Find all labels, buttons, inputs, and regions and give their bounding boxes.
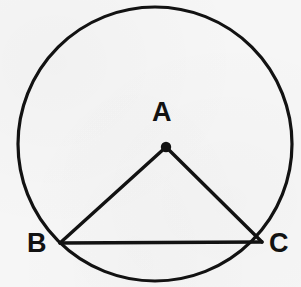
point-label-b: B: [27, 230, 47, 257]
center-point-dot: [161, 142, 171, 152]
segment-bc: [60, 242, 262, 243]
point-label-a: A: [152, 99, 172, 126]
circle-outline: [18, 7, 292, 281]
point-label-c: C: [269, 230, 289, 257]
geometry-figure: A B C: [0, 0, 301, 287]
segment-ab: [60, 147, 166, 243]
segment-ac: [166, 147, 262, 242]
